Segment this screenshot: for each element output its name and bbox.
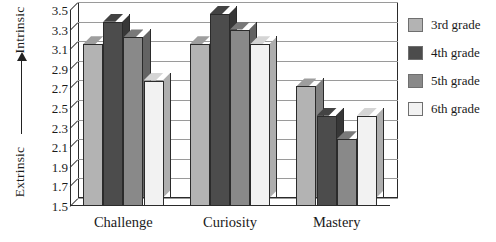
bar-curiosity-6th xyxy=(250,44,270,206)
legend-swatch-3rd xyxy=(408,18,423,32)
bar-mastery-3rd xyxy=(296,86,316,206)
legend: 3rd grade4th grade5th grade6th grade xyxy=(408,12,496,124)
bar-mastery-5th xyxy=(337,139,357,206)
bar-mastery-6th xyxy=(357,116,377,206)
bar-curiosity-5th xyxy=(230,30,250,206)
y-tick-label: 3.3 xyxy=(52,23,68,36)
bar-mastery-4th xyxy=(317,116,337,206)
bar-curiosity-3rd xyxy=(190,44,210,206)
legend-label: 6th grade xyxy=(431,101,480,117)
legend-label: 3rd grade xyxy=(431,17,480,33)
bar-3d-side-outline xyxy=(163,73,171,198)
legend-item: 3rd grade xyxy=(408,12,496,38)
x-label-curiosity: Curiosity xyxy=(203,214,257,231)
bars-layer xyxy=(70,2,398,206)
y-tick-label: 3.5 xyxy=(52,4,68,17)
bar-challenge-3rd xyxy=(83,44,103,206)
bar-challenge-5th xyxy=(123,37,143,206)
legend-swatch-5th xyxy=(408,74,423,88)
bar-3d-top xyxy=(210,6,230,14)
y-tick-label: 3.1 xyxy=(52,43,68,56)
y-axis-caption-intrinsic: Intrinsic xyxy=(12,7,28,54)
bar-curiosity-4th xyxy=(210,14,230,206)
y-axis-caption-extrinsic: Extrinsic xyxy=(12,147,28,198)
bar-3d-top xyxy=(296,78,316,86)
bar-3d-side-outline xyxy=(376,108,384,198)
bar-chart-figure: Intrinsic Extrinsic 1.51.71.92.12.32.52.… xyxy=(0,0,496,242)
y-tick-label: 1.5 xyxy=(52,200,68,213)
bar-challenge-4th xyxy=(103,22,123,206)
legend-label: 4th grade xyxy=(431,45,480,61)
y-tick-label: 2.1 xyxy=(52,141,68,154)
x-axis-category-labels: ChallengeCuriosityMastery xyxy=(70,212,398,240)
legend-swatch-4th xyxy=(408,46,423,60)
y-axis-tick-labels: 1.51.71.92.12.32.52.72.93.13.33.5 xyxy=(38,0,68,212)
bar-3d-side-outline xyxy=(269,36,277,198)
legend-label: 5th grade xyxy=(431,73,480,89)
x-label-challenge: Challenge xyxy=(94,214,153,231)
y-tick-label: 2.3 xyxy=(52,121,68,134)
bar-challenge-6th xyxy=(144,81,164,206)
y-tick-label: 1.9 xyxy=(52,160,68,173)
legend-item: 6th grade xyxy=(408,96,496,122)
y-tick-label: 2.7 xyxy=(52,82,68,95)
y-tick-label: 2.9 xyxy=(52,62,68,75)
y-tick-label: 1.7 xyxy=(52,180,68,193)
bar-3d-top xyxy=(190,36,210,44)
up-arrow-icon xyxy=(21,60,22,134)
bar-3d-top xyxy=(83,36,103,44)
bar-3d-top xyxy=(103,14,123,22)
legend-swatch-6th xyxy=(408,102,423,116)
legend-item: 5th grade xyxy=(408,68,496,94)
y-tick-label: 2.5 xyxy=(52,102,68,115)
x-label-mastery: Mastery xyxy=(313,214,361,231)
bar-3d-top xyxy=(357,108,377,116)
y-axis-caption: Intrinsic Extrinsic xyxy=(0,0,40,210)
legend-item: 4th grade xyxy=(408,40,496,66)
plot-area xyxy=(70,2,398,206)
